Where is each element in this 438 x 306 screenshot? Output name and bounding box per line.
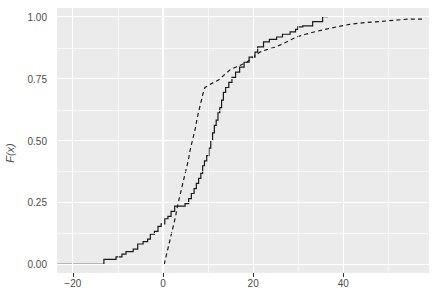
y-tick-label: 0.00: [13, 259, 47, 270]
x-tick-label: −20: [53, 278, 93, 289]
x-tick-mark: [343, 273, 344, 277]
x-tick-label: 0: [143, 278, 183, 289]
grid-line-horizontal: [57, 78, 429, 79]
y-tick-label: 1.00: [13, 11, 47, 22]
grid-line-horizontal: [57, 140, 429, 141]
grid-line-horizontal: [57, 202, 429, 203]
x-tick-mark: [163, 273, 164, 277]
x-tick-mark: [73, 273, 74, 277]
grid-line-vertical: [72, 8, 73, 273]
y-tick-label: 0.25: [13, 197, 47, 208]
grid-line-vertical: [162, 8, 163, 273]
grid-line-vertical: [253, 8, 254, 273]
y-tick-label: 0.75: [13, 73, 47, 84]
grid-line-horizontal: [57, 171, 429, 172]
y-tick-label: 0.50: [13, 135, 47, 146]
y-axis-tick-labels: 0.000.250.500.751.00: [13, 0, 47, 306]
x-tick-mark: [253, 273, 254, 277]
grid-line-horizontal: [57, 264, 429, 265]
plot-panel: [57, 8, 429, 273]
grid-line-horizontal: [57, 110, 429, 111]
ecdf-chart-figure: F(x) 0.000.250.500.751.00 −2002040: [0, 0, 438, 306]
grid-line-vertical: [343, 8, 344, 273]
grid-line-horizontal: [57, 233, 429, 234]
series-fitted-ecdf: [164, 19, 423, 264]
grid-line-horizontal: [57, 16, 429, 17]
x-tick-label: 20: [233, 278, 273, 289]
x-tick-label: 40: [323, 278, 363, 289]
grid-line-horizontal: [57, 48, 429, 49]
